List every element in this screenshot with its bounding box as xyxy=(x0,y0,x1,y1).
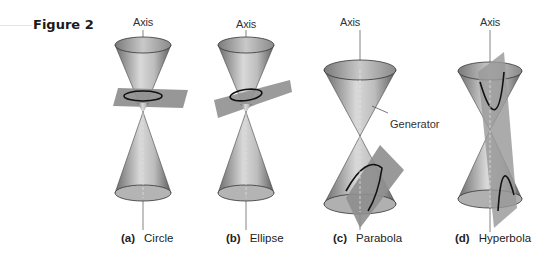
caption-name: Parabola xyxy=(356,232,402,244)
panel-parabola-diagram xyxy=(324,30,404,230)
axis-label-hyperbola: Axis xyxy=(480,16,500,28)
caption-name: Circle xyxy=(144,232,173,244)
caption-parabola: (c)Parabola xyxy=(333,232,402,244)
axis-label-circle: Axis xyxy=(133,16,153,28)
caption-letter: (b) xyxy=(226,232,241,244)
caption-name: Hyperbola xyxy=(479,232,531,244)
caption-hyperbola: (d)Hyperbola xyxy=(455,232,531,244)
caption-circle: (a)Circle xyxy=(121,232,173,244)
caption-letter: (d) xyxy=(455,232,470,244)
caption-name: Ellipse xyxy=(250,232,284,244)
caption-letter: (c) xyxy=(333,232,347,244)
conic-sections-diagram xyxy=(0,0,551,270)
caption-letter: (a) xyxy=(121,232,135,244)
axis-label-parabola: Axis xyxy=(340,16,360,28)
caption-ellipse: (b)Ellipse xyxy=(226,232,284,244)
axis-label-ellipse: Axis xyxy=(236,18,256,30)
panel-hyperbola-diagram xyxy=(458,30,522,232)
generator-label: Generator xyxy=(390,118,440,130)
panel-ellipse-diagram xyxy=(214,30,292,230)
panel-circle-diagram xyxy=(113,30,188,230)
